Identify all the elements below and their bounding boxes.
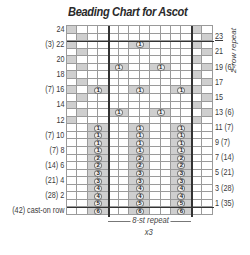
- chart-cell: [202, 71, 212, 79]
- chart-cell: [202, 86, 212, 94]
- chart-cell: [192, 162, 202, 170]
- chart-cell: [202, 132, 212, 140]
- bead-icon: 4: [177, 193, 185, 200]
- chart-cell: [67, 79, 77, 87]
- chart-cell: [150, 207, 160, 215]
- chart-cell: [129, 102, 139, 110]
- bead-icon: 3: [94, 178, 102, 185]
- chart-cell: [192, 94, 202, 102]
- chart-cell: [181, 26, 191, 34]
- chart-cell: [181, 49, 191, 57]
- chart-cell: [161, 94, 171, 102]
- chart-cell: [119, 192, 129, 200]
- chart-cell: [98, 49, 108, 57]
- chart-cell: [150, 79, 160, 87]
- chart-cell: [150, 147, 160, 155]
- chart-cell: [88, 94, 98, 102]
- repeat-boundary-line: [191, 26, 193, 217]
- chart-cell: [202, 94, 212, 102]
- chart-cell: [67, 49, 77, 57]
- chart-cell: [150, 94, 160, 102]
- chart-cell: [109, 177, 119, 185]
- chart-cell: [181, 64, 191, 72]
- chart-cell: [171, 102, 181, 110]
- bead-icon: 1: [94, 125, 102, 132]
- chart-cell: [202, 79, 212, 87]
- bead-icon: 1: [136, 140, 144, 147]
- chart-cell: [202, 109, 212, 117]
- chart-cell: [171, 49, 181, 57]
- chart-cell: [202, 139, 212, 147]
- chart-cell: [119, 177, 129, 185]
- chart-cell: [161, 79, 171, 87]
- chart-cell: [98, 94, 108, 102]
- chart-cell: [202, 41, 212, 49]
- chart-cell: [202, 155, 212, 163]
- chart-cell: [150, 124, 160, 132]
- chart-cell: [161, 132, 171, 140]
- chart-cell: [129, 109, 139, 117]
- chart-cell: [67, 94, 77, 102]
- chart-cell: [119, 132, 129, 140]
- chart-cell: [88, 109, 98, 117]
- chart-cell: [192, 102, 202, 110]
- chart-cell: [109, 56, 119, 64]
- chart-cell: [119, 71, 129, 79]
- chart-cell: [161, 147, 171, 155]
- row-label-left: (21) 4: [45, 176, 64, 184]
- chart-cell: [119, 86, 129, 94]
- chart-cell: [150, 132, 160, 140]
- chart-cell: [67, 185, 77, 193]
- chart-cell: [171, 64, 181, 72]
- chart-cell: [150, 102, 160, 110]
- row-label-left: (28) 2: [45, 191, 64, 199]
- row-label-right: 23: [215, 32, 223, 40]
- chart-cell: [77, 79, 87, 87]
- chart-cell: [192, 64, 202, 72]
- chart-cell: [161, 124, 171, 132]
- chart-cell: [192, 79, 202, 87]
- chart-cell: [161, 192, 171, 200]
- chart-cell: [202, 162, 212, 170]
- chart-cell: [98, 56, 108, 64]
- chart-cell: [192, 139, 202, 147]
- row-label-right: 3 (28): [215, 184, 234, 192]
- chart-cell: [150, 26, 160, 34]
- chart-cell: [98, 109, 108, 117]
- chart-cell: [181, 41, 191, 49]
- chart-cell: [150, 41, 160, 49]
- chart-cell: [181, 79, 191, 87]
- chart-cell: [150, 86, 160, 94]
- chart-cell: [161, 56, 171, 64]
- chart-title: Beading Chart for Ascot: [68, 4, 187, 19]
- row-label-right: 15: [215, 93, 223, 101]
- chart-cell: [109, 147, 119, 155]
- chart-cell: [88, 26, 98, 34]
- bead-icon: 1: [157, 64, 165, 71]
- chart-cell: [150, 49, 160, 57]
- chart-cell: [67, 26, 77, 34]
- bead-icon: 1: [94, 87, 102, 94]
- chart-cell: [202, 147, 212, 155]
- chart-cell: [119, 56, 129, 64]
- row-label-left: 20: [56, 55, 64, 63]
- chart-cell: [150, 162, 160, 170]
- chart-cell: [181, 102, 191, 110]
- row-label-left: (14) 6: [45, 161, 64, 169]
- chart-cell: [150, 185, 160, 193]
- chart-cell: [77, 139, 87, 147]
- chart-cell: [119, 117, 129, 125]
- chart-cell: [140, 102, 150, 110]
- chart-cell: [140, 117, 150, 125]
- chart-cell: [67, 147, 77, 155]
- chart-cell: [67, 155, 77, 163]
- chart-cell: [77, 49, 87, 57]
- chart-cell: [192, 185, 202, 193]
- bead-icon: 3: [136, 178, 144, 185]
- chart-cell: [119, 185, 129, 193]
- chart-cell: [77, 117, 87, 125]
- chart-cell: [109, 185, 119, 193]
- chart-cell: [161, 162, 171, 170]
- section-boundary-line: [67, 207, 214, 209]
- chart-cell: [202, 170, 212, 178]
